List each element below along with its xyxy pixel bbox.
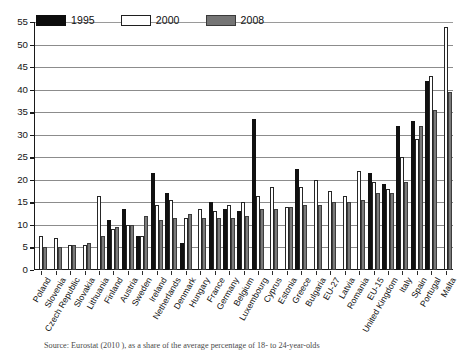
bar-group bbox=[63, 22, 77, 270]
bar-group bbox=[337, 22, 351, 270]
x-axis-tick-mark bbox=[402, 271, 403, 275]
y-axis-tick-label: 30 bbox=[0, 130, 28, 140]
x-axis-tick-mark bbox=[301, 271, 302, 275]
legend-label-2000: 2000 bbox=[156, 15, 180, 26]
y-axis-tick-label: 45 bbox=[0, 62, 28, 72]
bar-group bbox=[178, 22, 192, 270]
x-axis-tick-mark bbox=[244, 271, 245, 275]
bar-group bbox=[395, 22, 409, 270]
x-axis-tick-mark bbox=[142, 271, 143, 275]
bar-group bbox=[424, 22, 438, 270]
bar-2008 bbox=[101, 236, 105, 270]
x-axis-tick-mark bbox=[388, 271, 389, 275]
x-axis-tick-mark bbox=[287, 271, 288, 275]
x-axis-tick-mark bbox=[330, 271, 331, 275]
y-axis-tick-label: 55 bbox=[0, 17, 28, 27]
bar-2008 bbox=[448, 92, 452, 270]
bar-2008 bbox=[433, 110, 437, 270]
bar-2008 bbox=[43, 247, 47, 270]
bar-2008 bbox=[347, 202, 351, 270]
bar-2008 bbox=[188, 214, 192, 270]
bar-group bbox=[48, 22, 62, 270]
x-axis-tick-mark bbox=[113, 271, 114, 275]
legend-label-2008: 2008 bbox=[241, 15, 265, 26]
y-axis-tick-label: 10 bbox=[0, 220, 28, 230]
bar-2008 bbox=[217, 218, 221, 270]
bar-group bbox=[410, 22, 424, 270]
bar-group bbox=[207, 22, 221, 270]
bar-group bbox=[381, 22, 395, 270]
x-axis-tick-mark bbox=[128, 271, 129, 275]
bar-2008 bbox=[303, 205, 307, 270]
bar-group bbox=[280, 22, 294, 270]
x-axis-tick-mark bbox=[70, 271, 71, 275]
chart-legend: 1995 2000 2008 bbox=[36, 15, 264, 26]
legend-swatch-2000 bbox=[121, 15, 151, 26]
x-axis-tick-mark bbox=[359, 271, 360, 275]
bar-group bbox=[106, 22, 120, 270]
bar-group bbox=[135, 22, 149, 270]
bar-2008 bbox=[274, 209, 278, 270]
bar-group bbox=[193, 22, 207, 270]
bar-group bbox=[323, 22, 337, 270]
y-axis-tick-label: 40 bbox=[0, 85, 28, 95]
x-axis-tick-mark bbox=[99, 271, 100, 275]
bar-group bbox=[366, 22, 380, 270]
bar-2008 bbox=[144, 216, 148, 270]
x-axis-tick-mark bbox=[431, 271, 432, 275]
bar-group bbox=[34, 22, 48, 270]
bar-2008 bbox=[376, 193, 380, 270]
x-axis-tick-mark bbox=[215, 271, 216, 275]
y-axis-tick-label: 25 bbox=[0, 152, 28, 162]
y-axis-tick-label: 35 bbox=[0, 107, 28, 117]
bar-group bbox=[265, 22, 279, 270]
bar-group bbox=[439, 22, 453, 270]
y-axis-tick-label: 20 bbox=[0, 175, 28, 185]
x-axis-tick-mark bbox=[157, 271, 158, 275]
bar-group bbox=[121, 22, 135, 270]
y-axis-tick-label: 0 bbox=[0, 265, 28, 275]
legend-label-1995: 1995 bbox=[71, 15, 95, 26]
x-axis-labels: PolandSloveniaCzech RepublicSlovakiaLith… bbox=[34, 271, 453, 349]
bar-2008 bbox=[130, 225, 134, 270]
bar-2008 bbox=[404, 182, 408, 270]
bar-group bbox=[92, 22, 106, 270]
bar-2008 bbox=[173, 218, 177, 270]
bar-2008 bbox=[115, 227, 119, 270]
y-axis-tick-label: 5 bbox=[0, 242, 28, 252]
bar-series-container bbox=[34, 22, 453, 270]
y-axis: 0510152025303540455055 bbox=[0, 0, 34, 270]
bar-group bbox=[236, 22, 250, 270]
bar-2008 bbox=[260, 209, 264, 270]
legend-item-2008: 2008 bbox=[206, 15, 265, 26]
bar-group bbox=[251, 22, 265, 270]
legend-swatch-1995 bbox=[36, 15, 66, 26]
bar-2008 bbox=[159, 220, 163, 270]
x-axis-tick-mark bbox=[446, 271, 447, 275]
bar-group bbox=[294, 22, 308, 270]
x-axis-tick-mark bbox=[374, 271, 375, 275]
bar-2008 bbox=[72, 245, 76, 270]
bar-2008 bbox=[390, 193, 394, 270]
bar-2008 bbox=[318, 205, 322, 270]
bar-2008 bbox=[289, 207, 293, 270]
y-axis-tick-label: 50 bbox=[0, 40, 28, 50]
bar-2008 bbox=[332, 202, 336, 270]
bar-group bbox=[352, 22, 366, 270]
bar-2008 bbox=[245, 216, 249, 270]
x-axis-tick-mark bbox=[186, 271, 187, 275]
x-axis-tick-mark bbox=[345, 271, 346, 275]
x-axis-tick-mark bbox=[258, 271, 259, 275]
bar-2008 bbox=[202, 218, 206, 270]
bar-2008 bbox=[87, 243, 91, 270]
x-axis-tick-mark bbox=[272, 271, 273, 275]
x-axis-tick-mark bbox=[417, 271, 418, 275]
legend-item-1995: 1995 bbox=[36, 15, 121, 26]
bar-2008 bbox=[361, 200, 365, 270]
bar-group bbox=[222, 22, 236, 270]
x-axis-tick-mark bbox=[41, 271, 42, 275]
source-caption: Source: Eurostat (2010 ), as a share of … bbox=[44, 341, 320, 350]
x-axis-tick-mark bbox=[229, 271, 230, 275]
chart-figure: 0510152025303540455055 1995 2000 2008 Po… bbox=[0, 0, 461, 353]
legend-item-2000: 2000 bbox=[121, 15, 206, 26]
